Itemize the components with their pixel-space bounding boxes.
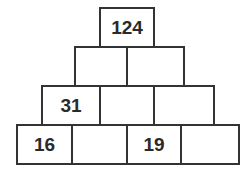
- pyramid-cell-r3-c1[interactable]: 31: [41, 85, 101, 126]
- pyramid-cell-r1-c1[interactable]: 124: [99, 7, 155, 48]
- pyramid-cell-r2-c2[interactable]: [126, 46, 185, 87]
- pyramid-cell-r4-c4[interactable]: [180, 124, 240, 165]
- number-pyramid: 124 31 16 19: [0, 0, 249, 174]
- pyramid-cell-r4-c3[interactable]: 19: [126, 124, 182, 165]
- pyramid-cell-r2-c1[interactable]: [74, 46, 128, 87]
- pyramid-cell-r4-c2[interactable]: [71, 124, 128, 165]
- pyramid-cell-r3-c3[interactable]: [153, 85, 215, 126]
- pyramid-cell-r4-c1[interactable]: 16: [16, 124, 73, 165]
- pyramid-cell-r3-c2[interactable]: [99, 85, 155, 126]
